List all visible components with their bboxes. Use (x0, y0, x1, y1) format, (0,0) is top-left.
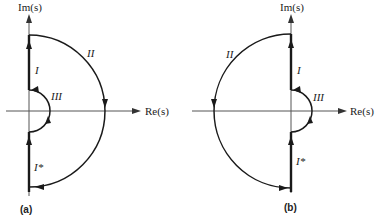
real-axis-arrow-icon (132, 108, 141, 114)
real-axis-label: Re(s) (350, 105, 374, 118)
contour-II-arrow-left-icon (35, 184, 44, 190)
contour-III-arrow-up-icon (307, 116, 313, 124)
panel-b: Im(s) Re(s) I II III I* (b) (192, 1, 374, 213)
panel-a: Im(s) Re(s) I II III I* (a) (6, 1, 169, 215)
panel-label-b: (b) (284, 202, 297, 213)
nyquist-contour-figure: Im(s) Re(s) I II III I* (a) Im(s) Re(s) … (0, 0, 377, 218)
contour-III-arrow-up-icon (45, 116, 51, 124)
contour-III-arrow-left-icon (31, 86, 39, 93)
contour-label-I-star: I* (295, 155, 306, 167)
real-axis-label: Re(s) (145, 105, 169, 118)
contour-I-arrow-icon (26, 40, 32, 49)
contour-label-I: I (296, 64, 302, 76)
contour-II-arrow-down-icon (102, 99, 108, 108)
imaginary-axis-arrow-icon (288, 14, 294, 23)
contour-III-arrow-left-icon (293, 86, 301, 93)
imaginary-axis-label: Im(s) (280, 1, 304, 14)
contour-label-I-star: I* (33, 161, 44, 173)
contour-label-III: III (50, 90, 63, 102)
contour-label-I: I (34, 64, 40, 76)
imaginary-axis-arrow-icon (26, 14, 32, 23)
real-axis-arrow-icon (338, 108, 347, 114)
contour-I-arrow-icon (288, 39, 294, 48)
contour-label-II: II (225, 48, 235, 60)
contour-label-III: III (312, 91, 325, 103)
panel-label-a: (a) (20, 204, 32, 215)
contour-I-star-arrow-icon (288, 136, 294, 145)
imaginary-axis-label: Im(s) (18, 1, 42, 14)
contour-II-arrow-down-icon (211, 99, 217, 108)
contour-I-star-arrow-icon (26, 136, 32, 145)
contour-II-arrow-right-icon (279, 185, 288, 191)
contour-label-II: II (86, 47, 96, 59)
